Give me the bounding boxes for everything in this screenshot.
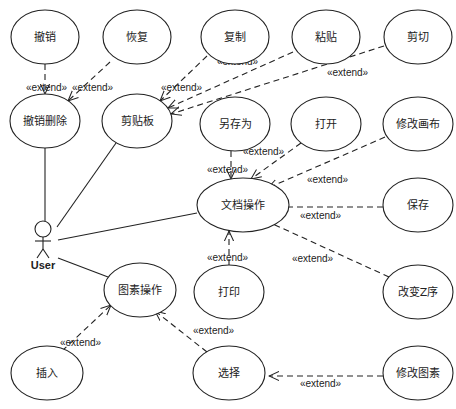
- use-case-label: 恢复: [126, 30, 148, 44]
- use-case-modify-primitive[interactable]: 修改图素: [383, 346, 453, 400]
- association-user-document-ops: [58, 213, 197, 240]
- extend-label: «extend»: [72, 82, 114, 93]
- use-case-save[interactable]: 保存: [383, 178, 453, 232]
- use-case-undo-delete[interactable]: 撤销删除: [10, 94, 80, 148]
- extend-insert-to-primitive-ops: «extend»: [60, 305, 111, 351]
- extend-cut-to-clipboard: «extend»: [171, 46, 384, 114]
- use-case-redo[interactable]: 恢复: [103, 10, 171, 64]
- extend-label: «extend»: [307, 174, 349, 185]
- use-case-label: 修改画布: [396, 117, 440, 131]
- association-lines: [45, 143, 197, 277]
- actor-label: User: [31, 259, 56, 271]
- use-case-modify-canvas[interactable]: 修改画布: [383, 97, 453, 151]
- extend-label: «extend»: [193, 325, 235, 336]
- use-case-label: 插入: [36, 366, 58, 380]
- extend-label: «extend»: [327, 67, 369, 78]
- extend-print-to-document-ops: «extend»: [207, 231, 249, 265]
- extend-change-z-order-to-document-ops: «extend»: [262, 219, 389, 277]
- association-user-clipboard: [57, 143, 116, 227]
- use-case-label: 撤销删除: [23, 114, 67, 128]
- use-case-change-z-order[interactable]: 改变Z序: [383, 265, 453, 319]
- actor-user[interactable]: User: [31, 221, 56, 271]
- use-case-label: 复制: [224, 30, 246, 44]
- use-case-label: 剪贴板: [121, 114, 154, 128]
- extend-label: «extend»: [207, 164, 249, 175]
- use-case-paste[interactable]: 粘贴: [292, 10, 360, 64]
- extend-label: «extend»: [207, 252, 249, 263]
- use-case-label: 选择: [218, 366, 240, 380]
- use-case-insert[interactable]: 插入: [11, 346, 83, 400]
- use-case-copy[interactable]: 复制: [201, 10, 269, 64]
- extend-label: «extend»: [292, 253, 334, 264]
- use-case-label: 另存为: [219, 117, 252, 131]
- use-case-undo[interactable]: 撤销: [11, 10, 79, 64]
- use-case-label: 打印: [218, 285, 240, 299]
- actor-left-leg-icon: [37, 249, 43, 258]
- extend-label: «extend»: [60, 337, 102, 348]
- use-case-diagram: «extend»«extend»«extend»«extend»«extend»…: [0, 0, 456, 409]
- extend-label: «extend»: [26, 82, 68, 93]
- extend-undo-to-undo-delete: «extend»: [26, 64, 68, 94]
- extend-redo-to-undo-delete: «extend»: [68, 62, 114, 101]
- use-case-open[interactable]: 打开: [291, 97, 361, 151]
- use-case-cut[interactable]: 剪切: [384, 10, 452, 64]
- extend-label: «extend»: [161, 82, 203, 93]
- extend-label: «extend»: [300, 210, 342, 221]
- use-case-label: 文档操作: [221, 198, 265, 212]
- extend-arrow: [262, 219, 389, 277]
- extend-label: «extend»: [300, 378, 342, 389]
- use-case-label: 粘贴: [315, 30, 337, 44]
- association-user-primitive-ops: [58, 258, 108, 277]
- use-case-label: 图素操作: [118, 283, 162, 297]
- extend-modify-primitive-to-select: «extend»: [269, 376, 383, 389]
- use-case-label: 保存: [407, 198, 429, 212]
- use-case-label: 修改图素: [396, 366, 440, 380]
- use-case-document-ops[interactable]: 文档操作: [197, 178, 289, 232]
- use-case-label: 打开: [315, 117, 337, 131]
- use-case-label: 撤销: [34, 30, 56, 44]
- actor-right-leg-icon: [43, 249, 49, 258]
- actor-head-icon: [35, 221, 51, 237]
- use-case-clipboard[interactable]: 剪贴板: [102, 94, 172, 148]
- use-case-print[interactable]: 打印: [194, 265, 264, 319]
- use-case-select[interactable]: 选择: [193, 346, 265, 400]
- extend-arrow: [171, 46, 384, 114]
- use-case-primitive-ops[interactable]: 图素操作: [104, 263, 176, 317]
- use-case-save-as[interactable]: 另存为: [200, 97, 270, 151]
- use-case-label: 改变Z序: [398, 285, 439, 299]
- use-case-label: 剪切: [407, 30, 429, 44]
